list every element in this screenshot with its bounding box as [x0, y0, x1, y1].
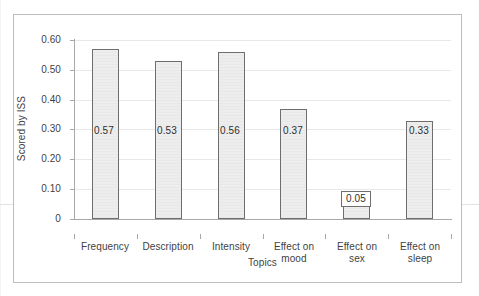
- gridline: [74, 40, 451, 41]
- y-tick-mark: [70, 129, 75, 130]
- y-tick-mark: [70, 70, 75, 71]
- bar-value-label: 0.56: [220, 125, 240, 136]
- chart-frame: 00.100.200.300.400.500.60 0.570.530.560.…: [13, 14, 462, 283]
- x-tick-mark: [74, 234, 75, 239]
- y-tick-mark: [70, 40, 75, 41]
- bar: [155, 61, 182, 219]
- y-tick-mark: [70, 100, 75, 101]
- gridline: [74, 189, 451, 190]
- x-tick-mark: [137, 234, 138, 239]
- scan-edge-artifact: [0, 0, 1, 296]
- y-tick-mark: [70, 159, 75, 160]
- gridline: [74, 129, 451, 130]
- category-label: Frequency: [71, 241, 139, 253]
- y-tick-label: 0.30: [41, 123, 61, 134]
- gridline: [74, 100, 451, 101]
- bar-value-label: 0.53: [157, 125, 177, 136]
- y-tick-label: 0.10: [41, 183, 61, 194]
- y-tick-label: 0.40: [41, 94, 61, 105]
- x-tick-mark: [388, 234, 389, 239]
- gridline: [74, 159, 451, 160]
- category-label: Intensity: [197, 241, 265, 253]
- x-tick-mark: [325, 234, 326, 239]
- y-tick-mark: [70, 189, 75, 190]
- x-axis-title: Topics: [14, 257, 479, 268]
- y-tick-label: 0.50: [41, 64, 61, 75]
- bar-value-label: 0.37: [283, 125, 303, 136]
- y-axis-title: Scored by ISS: [16, 78, 27, 178]
- x-tick-mark: [263, 234, 264, 239]
- gridline: [74, 70, 451, 71]
- y-tick-mark: [70, 219, 75, 220]
- x-tick-mark: [200, 234, 201, 239]
- bar-value-label: 0.33: [409, 125, 429, 136]
- bar: [406, 121, 433, 219]
- bar: [218, 52, 245, 219]
- x-tick-mark: [451, 234, 452, 239]
- bar-value-label: 0.05: [341, 191, 371, 207]
- y-tick-label: 0.20: [41, 153, 61, 164]
- y-tick-label: 0.60: [41, 34, 61, 45]
- category-label: Description: [134, 241, 202, 253]
- x-axis-line: [74, 219, 452, 220]
- y-tick-label: 0: [55, 213, 61, 224]
- bar-value-label: 0.57: [94, 125, 114, 136]
